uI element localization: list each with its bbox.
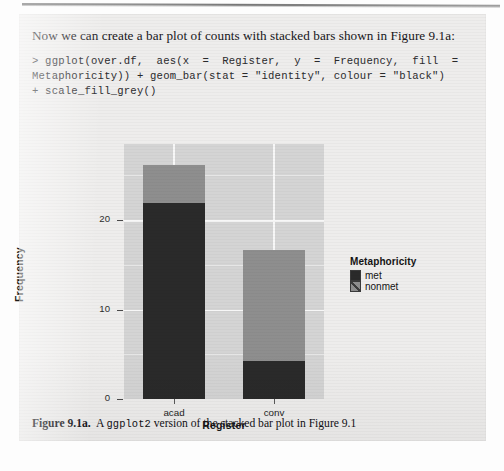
code-line-3: + scale_fill_grey() — [32, 85, 157, 97]
bar-segment-conv-met — [243, 361, 305, 399]
y-tick-label-20: 20 — [80, 213, 110, 224]
code-block: > ggplot(over.df, aes(x = Register, y = … — [32, 54, 482, 100]
code-line-1: > ggplot(over.df, aes(x = Register, y = … — [32, 55, 458, 67]
y-tick-label-0: 0 — [80, 392, 110, 403]
y-tick-label-10: 10 — [80, 303, 110, 314]
bar-segment-acad-nonmet — [143, 165, 205, 203]
bar-segment-acad-met — [143, 203, 205, 399]
bar-segment-conv-nonmet — [243, 250, 305, 361]
scanned-page-card: Now we can create a bar plot of counts w… — [19, 14, 486, 441]
y-tick-mark-10 — [117, 310, 123, 311]
figure-caption: Figure 9.1a. A ggplot2 version of the st… — [32, 416, 480, 432]
bar-acad — [143, 144, 205, 399]
x-tick-mark-acad — [174, 399, 175, 404]
figure-caption-after: version of the stacked bar plot in Figur… — [151, 417, 356, 430]
figure-caption-package: ggplot2 — [107, 418, 151, 430]
legend-swatch-nonmet — [350, 281, 361, 292]
figure-caption-label: Figure 9.1a. — [32, 417, 91, 430]
figure-caption-before: A — [96, 417, 107, 430]
y-axis-label: Frequency — [13, 247, 25, 302]
legend-title: Metaphoricity — [350, 256, 460, 267]
legend-label-met: met — [365, 270, 382, 281]
y-tick-mark-0 — [117, 399, 123, 400]
bar-conv — [243, 144, 305, 399]
legend-label-nonmet: nonmet — [365, 281, 398, 292]
legend-items: metnonmet — [350, 270, 460, 292]
page-root: Now we can create a bar plot of counts w… — [0, 0, 504, 471]
prose-paragraph: Now we can create a bar plot of counts w… — [32, 27, 478, 44]
y-tick-mark-20 — [117, 220, 123, 221]
code-line-2: Metaphoricity)) + geom_bar(stat = "ident… — [32, 70, 445, 82]
legend-item-nonmet: nonmet — [350, 281, 460, 292]
legend-item-met: met — [350, 270, 460, 281]
legend: Metaphoricity metnonmet — [350, 256, 460, 292]
legend-swatch-met — [350, 270, 361, 281]
x-tick-mark-conv — [274, 399, 275, 404]
figure-chart: Frequency 01020 acadconv Register Metaph… — [19, 106, 486, 406]
plot-panel — [124, 144, 324, 399]
